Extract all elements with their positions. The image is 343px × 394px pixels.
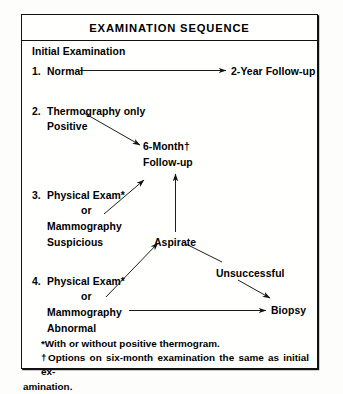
item-4-line-1: Physical Exam* [47,276,125,287]
figure-root: EXAMINATION SEQUENCE Initial Examination… [0,0,343,394]
item-2-line-2: Positive [47,119,88,135]
item-4-line-2: or [47,289,92,305]
edge-label-unsuccessful: Unsuccessful [216,266,285,282]
item-3-number: 3. [32,188,47,204]
title-band: EXAMINATION SEQUENCE [22,15,317,41]
section-label-initial-examination: Initial Examination [32,44,125,60]
figure-title: EXAMINATION SEQUENCE [89,22,249,34]
footnote-dagger-line-1: †Options on six-month examination the sa… [32,351,309,379]
footnote-star: *With or without positive thermogram. [32,337,309,351]
node-six-month-line-2: Follow-up [143,155,193,171]
footnotes: *With or without positive thermogram. †O… [32,337,309,394]
node-biopsy: Biopsy [271,303,306,319]
item-3-line-4: Suspicious [47,235,103,251]
item-2-line-1: Thermography only [47,106,145,117]
item-1-number: 1. [32,64,47,80]
item-1-label: Normal [47,66,83,77]
item-4-line-4: Abnormal [47,321,96,337]
item-3: 3.Physical Exam* [32,188,125,204]
item-2: 2.Thermography only [32,104,145,120]
item-3-line-3: Mammography [47,219,122,235]
node-aspirate: Aspirate [154,235,196,251]
item-4-number: 4. [32,274,47,290]
item-3-line-2: or [47,203,92,219]
item-1: 1.Normal [32,64,83,80]
item-4-line-3: Mammography [47,305,122,321]
item-2-number: 2. [32,104,47,120]
item-4: 4.Physical Exam* [32,274,125,290]
node-two-year-follow-up: 2-Year Follow-up [231,64,315,80]
node-six-month-line-1: 6-Month† [143,139,190,155]
item-3-line-1: Physical Exam* [47,190,125,201]
footnote-dagger-line-2: amination. [23,380,309,394]
